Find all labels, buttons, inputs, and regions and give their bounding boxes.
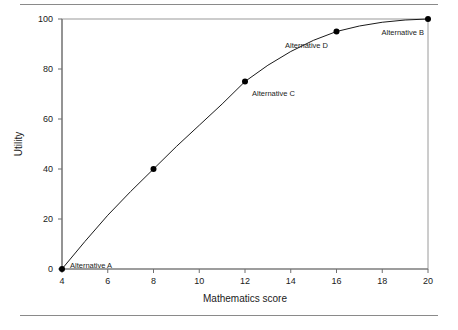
data-point-b[interactable]	[425, 16, 431, 22]
x-axis-title: Mathematics score	[203, 293, 287, 304]
data-point-8[interactable]	[151, 166, 157, 172]
y-tick-label-40: 40	[43, 164, 53, 174]
annotation-alternative-b: Alternative B	[381, 28, 424, 37]
x-tick-label-14: 14	[286, 276, 296, 286]
x-tick-label-4: 4	[59, 276, 64, 286]
y-axis-title: Utility	[13, 132, 24, 156]
y-tick-label-0: 0	[48, 264, 53, 274]
chart-canvas: 4 6 8 10 12 14 16 18 20 0 20 40 60 80 10…	[0, 0, 458, 330]
x-tick-label-6: 6	[105, 276, 110, 286]
data-point-a[interactable]	[59, 266, 65, 272]
annotation-alternative-d: Alternative D	[285, 41, 329, 50]
utility-curve-figure: 4 6 8 10 12 14 16 18 20 0 20 40 60 80 10…	[0, 0, 458, 330]
y-tick-label-60: 60	[43, 114, 53, 124]
annotation-alternative-c: Alternative C	[252, 89, 296, 98]
x-tick-label-16: 16	[331, 276, 341, 286]
plot-frame	[62, 19, 428, 269]
y-tick-label-100: 100	[38, 14, 53, 24]
x-tick-label-20: 20	[423, 276, 433, 286]
data-points	[59, 16, 431, 272]
data-point-d[interactable]	[334, 29, 340, 35]
x-tick-label-18: 18	[377, 276, 387, 286]
x-tick-label-8: 8	[151, 276, 156, 286]
x-tick-label-10: 10	[194, 276, 204, 286]
y-tick-label-80: 80	[43, 64, 53, 74]
data-point-c[interactable]	[242, 79, 248, 85]
utility-curve	[62, 19, 428, 269]
y-tick-label-20: 20	[43, 214, 53, 224]
annotation-alternative-a: Alternative A	[70, 261, 112, 270]
x-tick-label-12: 12	[240, 276, 250, 286]
